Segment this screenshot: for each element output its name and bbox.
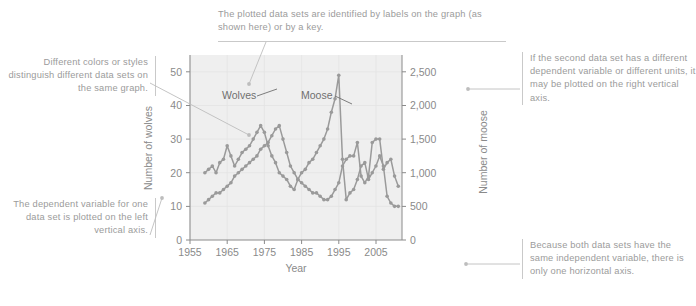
svg-text:1985: 1985 (290, 246, 314, 258)
horizontal-axis-annotation-dot (464, 262, 468, 266)
y-axis-title: Number of wolves (142, 106, 154, 190)
left-axis-annotation-dot (160, 196, 164, 200)
svg-text:1955: 1955 (178, 246, 202, 258)
right-axis-ticks: 05001,0001,5002,0002,500 (402, 66, 436, 246)
svg-text:0: 0 (176, 234, 182, 246)
moose-series-label: Moose (301, 89, 333, 101)
horizontal-axis-annotation: Because both data sets have the same ind… (522, 239, 696, 279)
svg-text:50: 50 (170, 66, 182, 78)
colors-annotation-leader (150, 83, 249, 135)
series-moose (203, 73, 400, 208)
wolves-label-leader (257, 89, 277, 96)
left-axis-annotation: The dependent variable for one data set … (8, 198, 156, 238)
svg-text:20: 20 (170, 167, 182, 179)
svg-text:1995: 1995 (327, 246, 351, 258)
labels-annotation: The plotted data sets are identified by … (218, 8, 508, 34)
moose-label-leader (335, 96, 352, 104)
colors-styles-annotation: Different colors or styles distinguish d… (8, 56, 156, 96)
svg-text:0: 0 (410, 234, 416, 246)
svg-text:1,500: 1,500 (410, 133, 436, 145)
left-axis-ticks: 01020304050 (170, 66, 190, 246)
y2-axis-title: Number of moose (477, 110, 489, 194)
svg-text:1,000: 1,000 (410, 167, 436, 179)
svg-text:1965: 1965 (216, 246, 240, 258)
svg-text:1975: 1975 (253, 246, 277, 258)
series-wolves (203, 124, 400, 205)
gridlines (190, 55, 402, 240)
svg-text:2005: 2005 (364, 246, 388, 258)
labels-annotation-rule (218, 41, 506, 42)
top-annotation-leader (249, 42, 266, 84)
svg-text:30: 30 (170, 133, 182, 145)
svg-text:500: 500 (410, 200, 428, 212)
annotation-leaders (150, 42, 520, 266)
right-axis-annotation: If the second data set has a different d… (522, 52, 696, 105)
top-annotation-dot (247, 82, 251, 86)
wolves-series-label: Wolves (222, 89, 256, 101)
series-paths (203, 73, 400, 208)
svg-text:2,000: 2,000 (410, 99, 436, 111)
plot-background (190, 55, 402, 240)
x-axis-title: Year (285, 262, 307, 274)
right-axis-annotation-dot (466, 87, 470, 91)
colors-annotation-dot (247, 133, 251, 137)
svg-text:40: 40 (170, 99, 182, 111)
svg-text:2,500: 2,500 (410, 66, 436, 78)
x-axis-ticks: 195519651975198519952005 (178, 240, 388, 258)
svg-text:10: 10 (170, 200, 182, 212)
